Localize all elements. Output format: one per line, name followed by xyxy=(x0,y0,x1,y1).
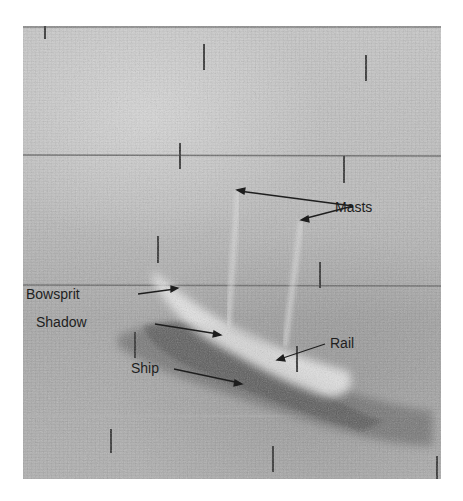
label-bowsprit: Bowsprit xyxy=(26,287,80,301)
sonar-image xyxy=(23,26,441,479)
label-ship: Ship xyxy=(131,361,159,375)
label-shadow: Shadow xyxy=(36,315,87,329)
label-masts: Masts xyxy=(335,200,372,214)
label-rail: Rail xyxy=(330,336,354,350)
sonar-figure: Masts Bowsprit Shadow Rail Ship xyxy=(23,26,441,479)
film-grain xyxy=(23,26,441,479)
